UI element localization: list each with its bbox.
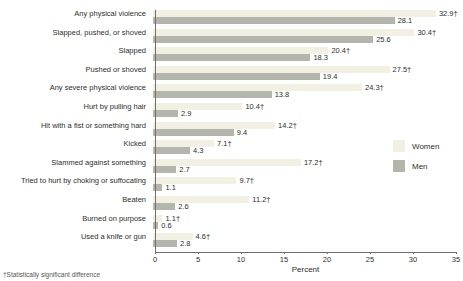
- men-bar-line: 18.3: [153, 54, 454, 61]
- category-label: Slapped, pushed, or shoved: [0, 29, 153, 38]
- men-bar: [153, 240, 177, 247]
- women-value-label: 17.2†: [304, 159, 323, 166]
- women-value-label: 30.4†: [417, 29, 436, 36]
- women-value-label: 24.3†: [365, 84, 384, 91]
- chart-row: Any physical violence32.9†28.1: [0, 10, 463, 29]
- women-bar-line: 27.5†: [153, 66, 454, 73]
- category-label: Tried to hurt by choking or suffocating: [0, 177, 153, 186]
- x-tick-mark: [413, 252, 414, 254]
- men-value-label: 9.4: [237, 129, 247, 136]
- women-value-label: 4.6†: [196, 233, 211, 240]
- women-bar-line: 20.4†: [153, 47, 454, 54]
- men-value-label: 0.6: [161, 222, 171, 229]
- women-value-label: 32.9†: [439, 10, 458, 17]
- men-value-label: 1.1: [165, 184, 175, 191]
- bar-pair: 30.4†25.6: [153, 29, 454, 43]
- legend-item-women: Women: [393, 140, 439, 152]
- x-tick-label: 30: [409, 255, 417, 264]
- bar-chart-figure: Any physical violence32.9†28.1Slapped, p…: [0, 0, 463, 281]
- women-value-label: 20.4†: [331, 47, 350, 54]
- men-legend-label: Men: [412, 162, 428, 171]
- bar-pair: 14.2†9.4: [153, 122, 454, 136]
- women-bar: [153, 66, 390, 73]
- bar-chart-rows: Any physical violence32.9†28.1Slapped, p…: [0, 10, 463, 252]
- women-bar-line: 1.1†: [153, 215, 454, 222]
- women-value-label: 14.2†: [278, 122, 297, 129]
- category-label: Pushed or shoved: [0, 66, 153, 75]
- women-bar: [153, 159, 301, 166]
- bar-pair: 10.4†2.9: [153, 103, 454, 117]
- men-value-label: 28.1: [398, 17, 413, 24]
- bar-pair: 27.5†19.4: [153, 66, 454, 80]
- men-bar-line: 2.9: [153, 110, 454, 117]
- bar-pair: 1.1†0.6: [153, 215, 454, 229]
- women-value-label: 7.1†: [217, 140, 232, 147]
- men-bar: [153, 203, 175, 210]
- women-bar-line: 14.2†: [153, 122, 454, 129]
- women-legend-label: Women: [412, 142, 439, 151]
- men-value-label: 13.8: [275, 91, 290, 98]
- category-label: Used a knife or gun: [0, 233, 153, 242]
- women-legend-swatch: [393, 140, 405, 152]
- women-bar: [153, 47, 328, 54]
- men-bar-line: 1.1: [153, 184, 454, 191]
- men-bar-line: 2.8: [153, 240, 454, 247]
- category-label: Slapped: [0, 47, 153, 56]
- women-bar: [153, 196, 249, 203]
- x-tick-mark: [456, 252, 457, 254]
- x-tick-label: 25: [366, 255, 374, 264]
- legend-item-men: Men: [393, 160, 439, 172]
- men-value-label: 2.8: [180, 240, 190, 247]
- bar-pair: 4.6†2.8: [153, 233, 454, 247]
- x-tick-label: 5: [196, 255, 200, 264]
- men-bar: [153, 110, 178, 117]
- men-value-label: 2.9: [181, 110, 191, 117]
- men-value-label: 4.3: [193, 147, 203, 154]
- bar-pair: 11.2†2.6: [153, 196, 454, 210]
- women-bar-line: 11.2†: [153, 196, 454, 203]
- category-label: Any severe physical violence: [0, 84, 153, 93]
- women-bar: [153, 122, 275, 129]
- women-bar-line: 10.4†: [153, 103, 454, 110]
- men-bar-line: 0.6: [153, 222, 454, 229]
- x-tick-label: 15: [280, 255, 288, 264]
- men-bar: [153, 17, 395, 24]
- x-tick-label: 10: [237, 255, 245, 264]
- x-axis-ticks: 05101520253035: [155, 255, 456, 265]
- men-bar: [153, 129, 234, 136]
- category-label: Beaten: [0, 196, 153, 205]
- men-bar-line: 19.4: [153, 73, 454, 80]
- y-axis-line: [155, 10, 156, 252]
- women-value-label: 27.5†: [393, 66, 412, 73]
- men-bar-line: 13.8: [153, 91, 454, 98]
- chart-row: Beaten11.2†2.6: [0, 196, 463, 215]
- chart-row: Any severe physical violence24.3†13.8: [0, 84, 463, 103]
- women-bar-line: 4.6†: [153, 233, 454, 240]
- women-bar: [153, 10, 436, 17]
- bar-pair: 20.4†18.3: [153, 47, 454, 61]
- women-value-label: 9.7†: [239, 177, 254, 184]
- women-bar: [153, 103, 242, 110]
- bar-pair: 32.9†28.1: [153, 10, 454, 24]
- x-tick-mark: [198, 252, 199, 254]
- category-label: Hit with a fist or something hard: [0, 122, 153, 131]
- chart-row: Tried to hurt by choking or suffocating9…: [0, 177, 463, 196]
- women-bar-line: 30.4†: [153, 29, 454, 36]
- x-tick-mark: [370, 252, 371, 254]
- men-value-label: 2.7: [179, 166, 189, 173]
- men-bar: [153, 54, 310, 61]
- chart-legend: Women Men: [393, 140, 439, 180]
- x-tick-label: 0: [153, 255, 157, 264]
- x-tick-label: 20: [323, 255, 331, 264]
- women-bar-line: 24.3†: [153, 84, 454, 91]
- women-bar: [153, 140, 214, 147]
- men-bar: [153, 147, 190, 154]
- men-value-label: 25.6: [376, 36, 391, 43]
- chart-row: Pushed or shoved27.5†19.4: [0, 66, 463, 85]
- x-tick-label: 35: [452, 255, 460, 264]
- men-bar-line: 9.4: [153, 129, 454, 136]
- category-label: Any physical violence: [0, 10, 153, 19]
- category-label: Slammed against something: [0, 159, 153, 168]
- men-value-label: 2.6: [178, 203, 188, 210]
- women-value-label: 11.2†: [252, 196, 270, 203]
